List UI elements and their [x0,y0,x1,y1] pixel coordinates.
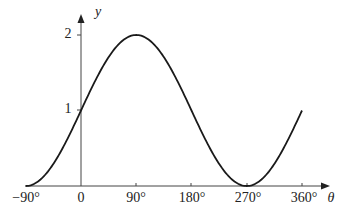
y-axis-arrow-icon [78,14,85,23]
x-tick-label: 360° [291,190,318,206]
x-tick-label: −90° [12,190,40,206]
x-axis-arrow-icon [321,183,330,190]
x-tick-label: 0 [78,190,85,206]
y-tick-label-2: 2 [65,26,72,42]
x-tick-label: 180° [179,190,206,206]
y-tick-label-1: 1 [65,101,72,117]
y-ticks [77,35,81,110]
x-axis-label: θ [328,190,335,206]
y-axis-label: y [95,4,101,20]
plot-area [0,0,342,216]
x-tick-label: 270° [235,190,262,206]
x-tick-label: 90° [126,190,146,206]
